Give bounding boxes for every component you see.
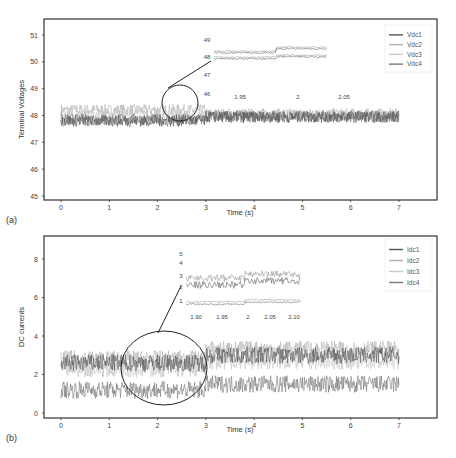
x-tick-label: 0 — [59, 422, 63, 429]
legend-label: Vdc4 — [407, 60, 422, 67]
chart-panel-a: 0123456745464748495051Time (s)Terminal V… — [6, 19, 437, 225]
x-tick-label: 5 — [300, 204, 304, 211]
x-tick-label: 6 — [349, 422, 353, 429]
y-tick-label: 49 — [30, 85, 38, 92]
inset-y-tick: 46 — [204, 91, 211, 97]
inset-x-tick: 2.10 — [288, 314, 300, 320]
x-tick-label: 0 — [59, 204, 63, 211]
y-tick-label: 47 — [30, 139, 38, 146]
x-axis-label: Time (s) — [226, 208, 254, 217]
x-tick-label: 1 — [107, 422, 111, 429]
figure: 0123456745464748495051Time (s)Terminal V… — [0, 0, 456, 458]
legend-label: Vdc2 — [407, 41, 422, 48]
x-tick-label: 6 — [349, 204, 353, 211]
y-tick-label: 46 — [30, 166, 38, 173]
legend: Idc1Idc2Idc3Idc4 — [385, 239, 432, 291]
plot-frame — [44, 236, 437, 418]
x-axis-label: Time (s) — [226, 425, 254, 434]
inset-x-tick: 1.90 — [190, 314, 202, 320]
x-tick-label: 7 — [397, 204, 401, 211]
y-tick-label: 50 — [30, 58, 38, 65]
panel-label: (b) — [6, 433, 17, 443]
chart-panel-b: 0123456702468Time (s)DC currents(b)54321… — [6, 236, 437, 443]
y-tick-label: 51 — [30, 32, 38, 39]
inset-x-tick: 1.95 — [216, 314, 228, 320]
y-tick-label: 4 — [34, 333, 38, 340]
y-tick-label: 45 — [30, 193, 38, 200]
y-axis-label: DC currents — [17, 307, 26, 347]
y-axis-label: Terminal Voltages — [17, 80, 26, 139]
legend-label: Vdc1 — [407, 31, 422, 38]
legend-label: Idc1 — [407, 246, 420, 253]
panel-label: (a) — [6, 215, 17, 225]
inset-y-tick: 49 — [204, 37, 211, 43]
x-tick-label: 3 — [204, 204, 208, 211]
inset-x-tick: 1.95 — [234, 94, 246, 100]
legend: Vdc1Vdc2Vdc3Vdc4 — [385, 25, 432, 72]
inset-x-tick: 2.05 — [338, 94, 350, 100]
inset-y-tick: 47 — [204, 72, 211, 78]
inset-y-tick: 48 — [204, 54, 211, 60]
x-tick-label: 3 — [204, 422, 208, 429]
x-tick-label: 1 — [107, 204, 111, 211]
y-tick-label: 6 — [34, 294, 38, 301]
y-tick-label: 0 — [34, 410, 38, 417]
x-tick-label: 2 — [156, 204, 160, 211]
x-tick-label: 7 — [397, 422, 401, 429]
x-tick-label: 5 — [300, 422, 304, 429]
legend-label: Idc2 — [407, 257, 420, 264]
legend-label: Idc3 — [407, 268, 420, 275]
inset-x-tick: 2.05 — [264, 314, 276, 320]
legend-label: Vdc3 — [407, 51, 422, 58]
legend-label: Idc4 — [407, 279, 420, 286]
y-tick-label: 2 — [34, 371, 38, 378]
y-tick-label: 48 — [30, 112, 38, 119]
x-tick-label: 2 — [156, 422, 160, 429]
y-tick-label: 8 — [34, 256, 38, 263]
